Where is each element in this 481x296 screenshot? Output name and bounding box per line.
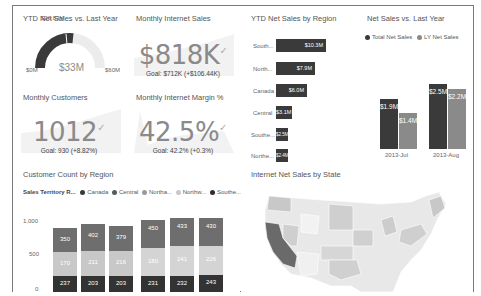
tile-title: YTD Net Sales by Region xyxy=(251,14,336,23)
stacked-column[interactable]: 402 211 203 xyxy=(81,224,105,292)
kpi-value: 1012✓ xyxy=(13,117,125,147)
legend-item-canada[interactable]: Canada xyxy=(80,189,108,195)
bar-total-aug[interactable]: $2.5M xyxy=(429,84,447,149)
legend-title: Sales Territory R... xyxy=(23,189,76,195)
x-label-aug: 2013-Aug xyxy=(433,152,459,158)
stacked-column[interactable]: 433 241 232 xyxy=(170,218,194,292)
legend-item-ly[interactable]: LY Net Sales xyxy=(417,34,458,40)
kpi-value: 42.5%✓ xyxy=(126,117,240,147)
tile-net-sales-vs-last-year[interactable]: Net Sales vs. Last Year Total Net Sales … xyxy=(357,6,473,161)
tile-title: Monthly Internet Sales xyxy=(136,14,211,23)
tile-monthly-customers[interactable]: Monthly Customers 1012✓ Goal: 930 (+8.82… xyxy=(13,85,125,161)
gauge-value: $33M xyxy=(59,62,84,73)
kpi-goal: Goal: 930 (+8.82%) xyxy=(13,147,125,154)
tile-customer-count-by-region[interactable]: Customer Count by Region Sales Territory… xyxy=(13,162,240,292)
check-icon: ✓ xyxy=(219,45,227,56)
y-tick: 0 xyxy=(35,286,38,292)
tile-internet-net-sales-by-state[interactable]: Internet Net Sales by State xyxy=(241,162,473,292)
kpi-value: $818K✓ xyxy=(126,40,240,70)
tile-title: Customer Count by Region xyxy=(23,170,113,179)
gauge-target-label: $26.83M xyxy=(41,15,64,21)
kpi-goal: Goal: $712K (+$106.44K) xyxy=(126,70,240,77)
check-icon: ✓ xyxy=(219,122,227,133)
tile-title: Net Sales vs. Last Year xyxy=(367,14,445,23)
check-icon: ✓ xyxy=(97,122,105,133)
chart-legend: Total Net Sales LY Net Sales xyxy=(365,34,459,40)
legend-item-northa[interactable]: Northa... xyxy=(142,189,172,195)
kpi-goal: Goal: 42.2% (+0.3%) xyxy=(126,147,240,154)
tile-title: Internet Net Sales by State xyxy=(251,170,341,179)
us-states-map[interactable] xyxy=(261,190,461,292)
y-tick: 500 xyxy=(29,251,39,257)
tile-title: Monthly Internet Margin % xyxy=(136,93,224,102)
tile-ytd-net-sales-by-region[interactable]: YTD Net Sales by Region South...$10.3M N… xyxy=(241,6,356,161)
stacked-column[interactable]: 450 180 231 xyxy=(141,220,165,292)
stacked-column[interactable]: 379 216 203 xyxy=(109,226,133,292)
legend-item-southe[interactable]: Southe... xyxy=(210,189,241,195)
tile-title: Monthly Customers xyxy=(23,93,88,102)
gauge-min-label: $0M xyxy=(26,67,38,73)
dashboard-canvas: YTD Net Sales vs. Last Year $26.83M $0M … xyxy=(12,5,474,292)
tile-monthly-internet-sales[interactable]: Monthly Internet Sales $818K✓ Goal: $712… xyxy=(126,6,240,84)
chart-legend: Sales Territory R... Canada Central Nort… xyxy=(23,189,241,195)
x-label-jul: 2013-Jul xyxy=(385,152,408,158)
y-tick: 1,000 xyxy=(23,218,38,224)
legend-item-total[interactable]: Total Net Sales xyxy=(365,34,412,40)
gauge-max-label: $60M xyxy=(105,67,120,73)
stacked-column[interactable]: 350 170 237 xyxy=(53,228,77,292)
tile-ytd-net-sales-gauge[interactable]: YTD Net Sales vs. Last Year $26.83M $0M … xyxy=(13,6,125,84)
tile-title: YTD Net Sales vs. Last Year xyxy=(23,14,118,23)
legend-item-northw[interactable]: Northw... xyxy=(176,189,207,195)
tile-monthly-internet-margin[interactable]: Monthly Internet Margin % 42.5%✓ Goal: 4… xyxy=(126,85,240,161)
bar-ly-jul[interactable]: $1.4M xyxy=(399,113,417,149)
bar-ly-aug[interactable]: $2.2M xyxy=(448,89,466,149)
stacked-column[interactable]: 430 226 243 xyxy=(199,218,223,292)
legend-item-central[interactable]: Central xyxy=(112,189,138,195)
bar-total-jul[interactable]: $1.9M xyxy=(380,99,398,149)
